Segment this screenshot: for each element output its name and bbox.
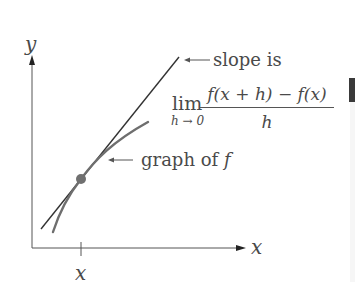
numerator: f(x + h) − f(x) bbox=[200, 84, 334, 108]
denominator: h bbox=[200, 108, 334, 132]
y-axis-label: y bbox=[25, 34, 36, 54]
point-of-tangency bbox=[76, 174, 86, 184]
edge-dark-bar bbox=[349, 78, 355, 102]
slope-arrowhead-icon bbox=[184, 58, 190, 63]
y-axis-arrow-icon bbox=[29, 55, 35, 65]
graph-of-f-curve bbox=[53, 122, 148, 232]
slope-label: slope is bbox=[213, 51, 282, 69]
x-axis-arrow-icon bbox=[236, 245, 246, 251]
limit-word: lim bbox=[172, 94, 202, 113]
tangent-line bbox=[41, 57, 179, 229]
graph-label: graph of f bbox=[141, 151, 231, 169]
graph-label-fn: f bbox=[224, 149, 231, 170]
difference-quotient: f(x + h) − f(x) h bbox=[200, 84, 334, 132]
graph-label-text: graph of bbox=[141, 149, 224, 170]
graph-arrowhead-icon bbox=[108, 158, 114, 163]
diagram-canvas bbox=[0, 0, 355, 294]
edge-light-strip bbox=[350, 102, 355, 282]
x-tick-label: x bbox=[75, 263, 86, 283]
x-axis-label: x bbox=[251, 237, 262, 257]
